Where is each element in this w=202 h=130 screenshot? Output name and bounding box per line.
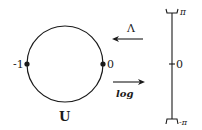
label-minus-pi: -π xyxy=(179,118,188,127)
bottom-bracket-icon xyxy=(166,119,178,124)
point-minus-one xyxy=(24,61,29,66)
label-minus-one: -1 xyxy=(13,58,24,71)
log-arrow xyxy=(113,79,145,85)
label-zero-circle: 0 xyxy=(107,58,114,71)
top-bracket-icon xyxy=(166,9,178,13)
lambda-arrow xyxy=(112,36,143,42)
point-zero-circle xyxy=(100,61,105,66)
unit-circle xyxy=(27,26,103,102)
circle-label-U: U xyxy=(59,109,71,124)
label-zero-interval: 0 xyxy=(176,58,183,71)
lambda-label: Λ xyxy=(126,22,136,35)
log-label: log xyxy=(116,88,133,99)
diagram-canvas: -1 0 U Λ log π 0 -π xyxy=(0,0,202,130)
label-pi: π xyxy=(179,7,187,17)
